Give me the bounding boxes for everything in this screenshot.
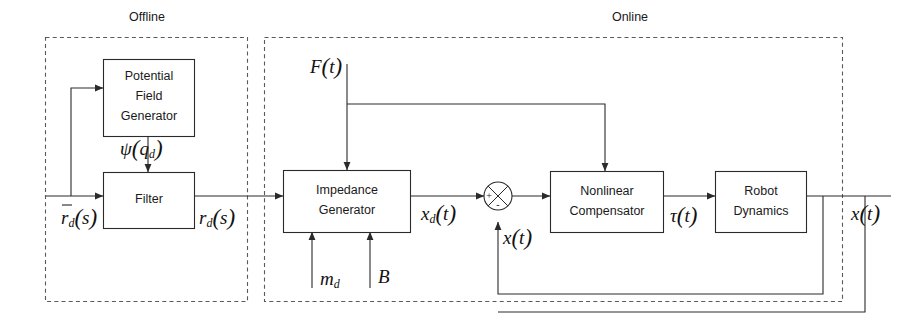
signal-label-input-rd-bar: rd(s) (61, 205, 97, 230)
summing-junction[interactable]: + - (484, 182, 512, 210)
md-sub: d (334, 277, 341, 291)
svg-text:τ(t): τ(t) (670, 203, 697, 228)
svg-text:xd(t): xd(t) (420, 201, 456, 226)
section-title-offline: Offline (129, 10, 165, 24)
rd-bar-arg: s (82, 207, 89, 228)
section-title-online: Online (612, 10, 648, 24)
b-base: B (378, 266, 390, 287)
signal-label-x-t-feedback: x(t) (502, 225, 532, 250)
impedance-label-line2: Generator (319, 203, 375, 217)
block-filter[interactable]: Filter (104, 173, 195, 229)
svg-text:B: B (378, 266, 390, 287)
filter-label: Filter (135, 192, 163, 206)
pfg-label-line2: Field (135, 89, 162, 103)
pfg-label-line3: Generator (121, 109, 177, 123)
ft-base: F (309, 56, 322, 77)
parameter-label-damping-b: B (378, 266, 390, 287)
block-diagram: Offline Online Potential Field Generator (0, 0, 924, 330)
block-nonlinear-compensator[interactable]: Nonlinear Compensator (551, 172, 664, 233)
compensator-label-line1: Nonlinear (580, 184, 634, 198)
rd-out-arg: s (220, 207, 227, 228)
robot-label-line2: Dynamics (734, 204, 789, 218)
svg-text:x(t): x(t) (502, 225, 532, 250)
signal-label-filter-out-rd: rd(s) (199, 205, 235, 230)
svg-text:md: md (320, 268, 341, 290)
signal-label-psi-qd: ψ(qd) (120, 136, 163, 161)
parameter-label-mass-md: md (320, 268, 341, 290)
robot-label-line1: Robot (744, 184, 778, 198)
block-robot-dynamics[interactable]: Robot Dynamics (716, 172, 807, 233)
signal-label-force-ft: F(t) (309, 54, 342, 79)
block-potential-field-generator[interactable]: Potential Field Generator (104, 60, 195, 137)
svg-text:F(t): F(t) (309, 54, 342, 79)
svg-text:rd(s): rd(s) (199, 205, 235, 230)
sum-plus-sign: + (486, 190, 492, 201)
md-base: m (320, 268, 334, 289)
signal-label-tau-t: τ(t) (670, 203, 697, 228)
region-online-boundary (265, 38, 843, 302)
svg-text:x(t): x(t) (850, 201, 880, 226)
wire-force-branch-to-compensator (347, 104, 605, 171)
signal-label-xd-t: xd(t) (420, 201, 456, 226)
svg-text:rd(s): rd(s) (61, 205, 97, 230)
block-impedance-generator[interactable]: Impedance Generator (284, 171, 411, 233)
signal-label-x-t-output: x(t) (850, 201, 880, 226)
sum-minus-sign: - (496, 199, 499, 210)
compensator-label-line2: Compensator (569, 204, 644, 218)
svg-text:ψ(qd): ψ(qd) (120, 136, 163, 161)
pfg-label-line1: Potential (125, 69, 174, 83)
impedance-label-line1: Impedance (316, 183, 378, 197)
diagram-canvas: Offline Online Potential Field Generator (0, 0, 924, 330)
psi-arg: q (139, 138, 149, 159)
wire-branch-up-to-pfg (71, 88, 103, 196)
